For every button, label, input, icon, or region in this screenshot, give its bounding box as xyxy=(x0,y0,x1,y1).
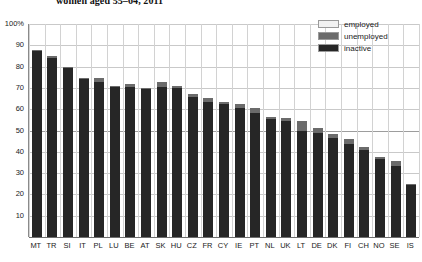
bar-segment-inactive xyxy=(281,121,291,237)
gridline-vertical xyxy=(279,24,280,237)
bar-at xyxy=(141,88,151,237)
legend-label-inactive: inactive xyxy=(344,44,371,53)
x-axis-tick-label-is: IS xyxy=(402,241,418,250)
bar-pt xyxy=(250,108,260,238)
bar-mt xyxy=(32,50,42,237)
x-axis-tick-label-ch: CH xyxy=(356,241,372,250)
bar-segment-inactive xyxy=(344,144,354,237)
x-axis-tick-label-fi: FI xyxy=(340,241,356,250)
legend-swatch-employed xyxy=(318,20,339,28)
plot-area xyxy=(28,24,419,237)
legend-item-employed: employed xyxy=(318,19,418,29)
bar-de xyxy=(313,128,323,237)
bar-segment-inactive xyxy=(375,159,385,237)
bar-segment-inactive xyxy=(328,138,338,237)
bar-be xyxy=(125,84,135,237)
legend-label-unemployed: unemployed xyxy=(344,32,388,41)
bar-segment-inactive xyxy=(219,104,229,237)
x-axis-tick-label-mt: MT xyxy=(28,241,44,250)
x-axis-tick-label-hu: HU xyxy=(168,241,184,250)
bar-segment-inactive xyxy=(266,119,276,237)
gridline-vertical xyxy=(403,24,404,237)
bar-segment-inactive xyxy=(110,87,120,237)
y-axis-tick-label: 40 xyxy=(0,148,24,156)
gridline-vertical xyxy=(107,24,108,237)
gridline-vertical xyxy=(232,24,233,237)
bar-no xyxy=(375,157,385,237)
gridline-vertical xyxy=(341,24,342,237)
legend-swatch-unemployed xyxy=(318,32,339,40)
x-axis-tick-label-de: DE xyxy=(309,241,325,250)
gridline-vertical xyxy=(263,24,264,237)
bar-segment-inactive xyxy=(359,150,369,237)
bar-it xyxy=(79,78,89,237)
bar-nl xyxy=(266,117,276,237)
legend-label-employed: employed xyxy=(344,20,379,29)
bar-sk xyxy=(157,82,167,237)
bar-segment-inactive xyxy=(188,97,198,237)
y-axis-tick-label: 20 xyxy=(0,190,24,198)
gridline-vertical xyxy=(310,24,311,237)
gridline-vertical xyxy=(169,24,170,237)
bar-segment-inactive xyxy=(172,88,182,237)
bar-dk xyxy=(328,134,338,237)
x-axis-tick-label-dk: DK xyxy=(324,241,340,250)
gridline-vertical xyxy=(154,24,155,237)
chart-title-area: women aged 55–64, 2011 xyxy=(0,0,422,13)
bar-segment-inactive xyxy=(235,108,245,237)
x-axis-tick-label-uk: UK xyxy=(278,241,294,250)
x-axis-tick-label-no: NO xyxy=(371,241,387,250)
bar-segment-inactive xyxy=(250,113,260,237)
y-axis-tick-label: 90 xyxy=(0,41,24,49)
plot-inner xyxy=(29,24,419,237)
bar-se xyxy=(391,161,401,237)
y-axis-tick-label: 70 xyxy=(0,84,24,92)
legend: employedunemployedinactive xyxy=(318,19,418,55)
gridline-vertical xyxy=(45,24,46,237)
y-axis-tick-label: 60 xyxy=(0,105,24,113)
bar-segment-inactive xyxy=(32,51,42,237)
x-axis-tick-label-fr: FR xyxy=(200,241,216,250)
gridline-horizontal xyxy=(29,67,419,68)
legend-item-inactive: inactive xyxy=(318,43,418,53)
gridline-vertical xyxy=(325,24,326,237)
x-axis-tick-label-it: IT xyxy=(75,241,91,250)
bar-uk xyxy=(281,118,291,237)
chart-title: women aged 55–64, 2011 xyxy=(56,0,163,6)
bar-lt xyxy=(297,121,307,237)
x-axis-tick-label-pt: PT xyxy=(246,241,262,250)
gridline-vertical xyxy=(357,24,358,237)
bar-fi xyxy=(344,139,354,237)
bar-lu xyxy=(110,86,120,237)
bar-cy xyxy=(219,102,229,237)
gridline-vertical xyxy=(76,24,77,237)
bar-pl xyxy=(94,78,104,237)
axis-baseline xyxy=(29,237,419,238)
gridline-vertical xyxy=(185,24,186,237)
gridline-vertical xyxy=(60,24,61,237)
gridline-vertical xyxy=(201,24,202,237)
bar-segment-inactive xyxy=(141,89,151,237)
x-axis-tick-label-tr: TR xyxy=(44,241,60,250)
gridline-vertical xyxy=(247,24,248,237)
bar-segment-inactive xyxy=(79,79,89,237)
x-axis-tick-label-nl: NL xyxy=(262,241,278,250)
x-axis-tick-label-at: AT xyxy=(137,241,153,250)
y-axis-tick-label: 30 xyxy=(0,169,24,177)
legend-swatch-inactive xyxy=(318,44,339,52)
gridline-vertical xyxy=(372,24,373,237)
gridline-vertical xyxy=(419,24,420,237)
bar-segment-inactive xyxy=(406,185,416,237)
x-axis-tick-label-cz: CZ xyxy=(184,241,200,250)
bar-segment-inactive xyxy=(203,102,213,237)
bar-segment-inactive xyxy=(297,131,307,238)
y-axis-tick-label: 50 xyxy=(0,127,24,135)
bar-segment-unemployed xyxy=(297,121,307,131)
bar-fr xyxy=(203,98,213,237)
y-axis-tick-label: 100% xyxy=(0,20,24,28)
bar-segment-inactive xyxy=(94,82,104,237)
bar-ch xyxy=(359,147,369,237)
y-axis-tick-label: 80 xyxy=(0,63,24,71)
bar-segment-inactive xyxy=(157,87,167,237)
x-axis-tick-label-si: SI xyxy=(59,241,75,250)
